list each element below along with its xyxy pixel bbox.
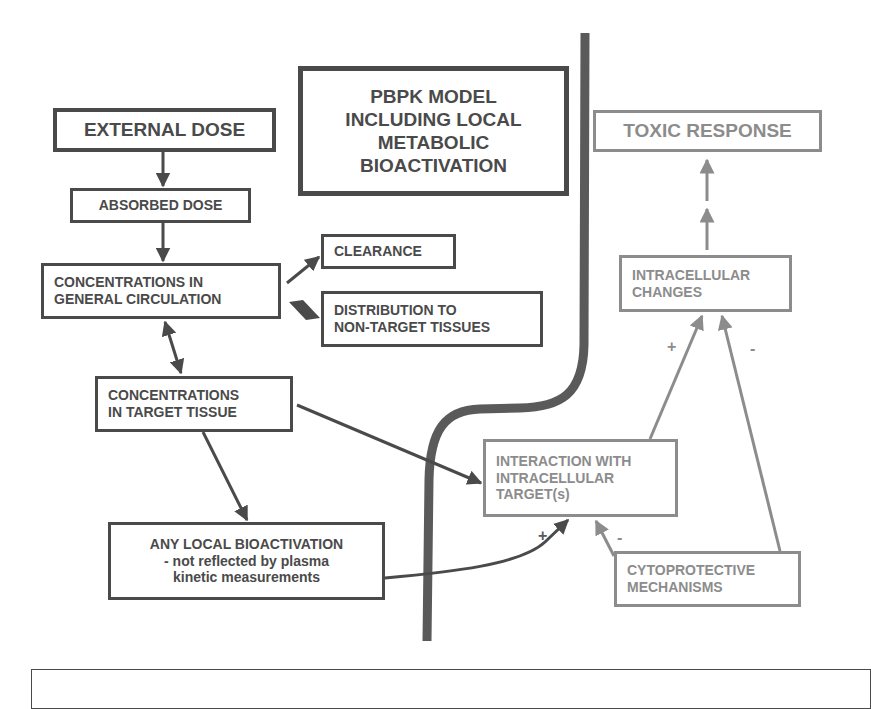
toxic-response-box: TOXIC RESPONSE [593,110,822,152]
local-bioactivation-box: ANY LOCAL BIOACTIVATION - not reflected … [108,522,385,600]
interaction-line-2: INTRACELLULAR [496,470,614,487]
cytoprotective-line-2: MECHANISMS [627,579,723,596]
arrow-distribution-to-circulation [289,300,320,320]
absorbed-dose-box: ABSORBED DOSE [70,188,251,223]
plus-sign-bioactivation: + [538,527,547,545]
target-tissue-line-1: CONCENTRATIONS [108,387,239,404]
plus-sign-interaction-changes: + [667,338,676,356]
intracellular-changes-box: INTRACELLULAR CHANGES [619,255,792,312]
arrow-circulation-target-bidirectional [165,322,181,373]
cytoprotective-line-1: CYTOPROTECTIVE [627,562,755,579]
cytoprotective-box: CYTOPROTECTIVE MECHANISMS [614,551,801,607]
local-bioactivation-line-1: ANY LOCAL BIOACTIVATION [150,536,343,553]
interaction-line-3: TARGET(s) [496,486,570,503]
external-dose-label: EXTERNAL DOSE [84,119,245,142]
target-tissue-box: CONCENTRATIONS IN TARGET TISSUE [95,376,293,432]
minus-sign-cytoprotective-interaction: - [617,529,622,547]
intracellular-changes-line-1: INTRACELLULAR [632,267,750,284]
arrow-target-to-bioactivation [203,432,247,520]
general-circulation-line-1: CONCENTRATIONS IN [54,274,203,291]
toxic-response-label: TOXIC RESPONSE [623,120,792,143]
interaction-box: INTERACTION WITH INTRACELLULAR TARGET(s) [483,439,678,517]
title-line-1: PBPK MODEL [370,85,497,108]
arrow-circulation-to-clearance [287,257,319,283]
target-tissue-line-2: IN TARGET TISSUE [108,404,237,421]
general-circulation-line-2: GENERAL CIRCULATION [54,291,221,308]
arrow-cytoprotective-to-interaction [596,521,614,556]
distribution-line-2: NON-TARGET TISSUES [334,319,490,336]
general-circulation-box: CONCENTRATIONS IN GENERAL CIRCULATION [41,263,281,319]
local-bioactivation-line-3: kinetic measurements [173,569,320,586]
minus-sign-cytoprotective-changes: - [750,340,755,358]
pbpk-model-title-box: PBPK MODEL INCLUDING LOCAL METABOLIC BIO… [298,66,569,196]
clearance-label: CLEARANCE [334,243,422,260]
arrow-interaction-to-changes [650,316,702,439]
intracellular-changes-line-2: CHANGES [632,284,702,301]
absorbed-dose-label: ABSORBED DOSE [99,197,223,214]
title-line-3: METABOLIC [378,131,490,154]
title-line-4: BIOACTIVATION [360,154,507,177]
interaction-line-1: INTERACTION WITH [496,453,631,470]
local-bioactivation-line-2: - not reflected by plasma [164,553,329,570]
distribution-box: DISTRIBUTION TO NON-TARGET TISSUES [321,291,543,347]
external-dose-box: EXTERNAL DOSE [53,108,276,152]
bottom-caption-frame [31,669,871,709]
title-line-2: INCLUDING LOCAL [345,108,521,131]
clearance-box: CLEARANCE [321,234,456,269]
distribution-line-1: DISTRIBUTION TO [334,302,457,319]
